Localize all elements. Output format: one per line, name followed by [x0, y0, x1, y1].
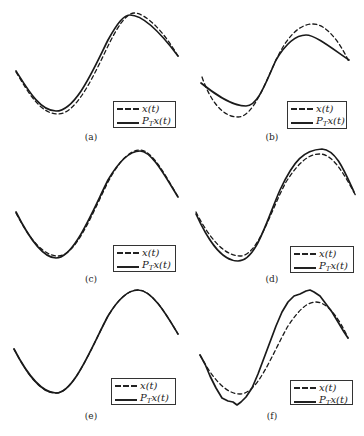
solid-line-swatch-icon [117, 266, 139, 268]
panel-d-caption: (d) [266, 274, 279, 284]
plot-canvas [0, 0, 364, 436]
legend-label-pt: PTx(t) [140, 392, 169, 407]
legend-label-x: x(t) [142, 247, 159, 259]
legend-item-pt: PTx(t) [294, 260, 350, 275]
figure: x(t) PTx(t) x(t) PTx(t) x(t) PTx(t) x(t) [0, 0, 364, 436]
legend-label-x: x(t) [140, 380, 157, 392]
legend-item-pt: PTx(t) [115, 392, 172, 407]
legend-item-x: x(t) [294, 248, 350, 260]
solid-line-swatch-icon [115, 399, 137, 401]
panel-b-legend: x(t) PTx(t) [287, 101, 347, 129]
legend-label-x: x(t) [319, 248, 336, 260]
solid-line-swatch-icon [294, 401, 316, 403]
panel-b-pt-solid [201, 35, 349, 106]
legend-item-pt: PTx(t) [291, 115, 343, 130]
panel-d-legend: x(t) PTx(t) [290, 246, 354, 273]
solid-line-swatch-icon [291, 122, 313, 124]
legend-label-x: x(t) [319, 382, 336, 394]
dashed-line-swatch-icon [117, 252, 139, 254]
panel-f-caption: (f) [267, 411, 277, 421]
solid-line-swatch-icon [294, 267, 316, 269]
legend-label-pt: PTx(t) [142, 259, 171, 274]
panel-c-curves [16, 150, 178, 258]
legend-label-x: x(t) [142, 103, 159, 115]
dashed-line-swatch-icon [115, 385, 137, 387]
panel-a-curves [16, 13, 178, 114]
legend-label-pt: PTx(t) [142, 115, 171, 130]
legend-label-pt: PTx(t) [316, 115, 345, 130]
panel-a-pt-solid [16, 15, 178, 111]
solid-line-swatch-icon [117, 122, 139, 124]
dashed-line-swatch-icon [291, 108, 313, 110]
legend-item-x: x(t) [117, 247, 172, 259]
panel-c-legend: x(t) PTx(t) [113, 245, 176, 272]
panel-e-legend: x(t) PTx(t) [111, 378, 176, 405]
legend-item-pt: PTx(t) [294, 394, 349, 409]
panel-d-x-dashed [196, 154, 356, 256]
panel-e-caption: (e) [85, 411, 97, 421]
legend-item-x: x(t) [117, 103, 172, 115]
panel-a-legend: x(t) PTx(t) [113, 101, 176, 128]
panel-c-caption: (c) [85, 274, 97, 284]
panel-d-curves [196, 149, 356, 261]
dashed-line-swatch-icon [294, 387, 316, 389]
panel-b-caption: (b) [266, 132, 279, 142]
legend-item-x: x(t) [291, 103, 343, 115]
legend-item-pt: PTx(t) [117, 259, 172, 274]
dashed-line-swatch-icon [294, 253, 316, 255]
legend-label-pt: PTx(t) [319, 260, 348, 275]
legend-label-pt: PTx(t) [319, 394, 348, 409]
dashed-line-swatch-icon [117, 108, 139, 110]
panel-a-caption: (a) [85, 132, 97, 142]
panel-f-legend: x(t) PTx(t) [290, 380, 353, 405]
legend-item-x: x(t) [294, 382, 349, 394]
panel-c-pt-solid [16, 151, 178, 258]
legend-item-pt: PTx(t) [117, 115, 172, 130]
legend-label-x: x(t) [316, 103, 333, 115]
legend-item-x: x(t) [115, 380, 172, 392]
